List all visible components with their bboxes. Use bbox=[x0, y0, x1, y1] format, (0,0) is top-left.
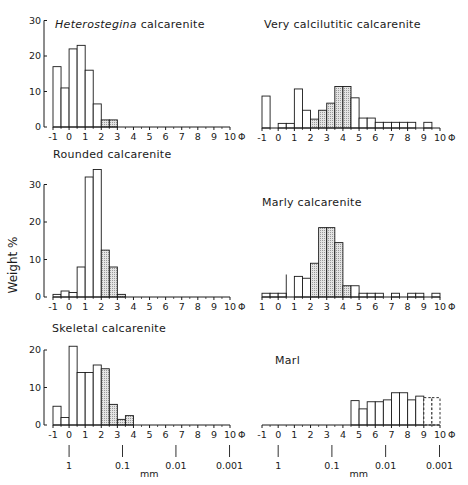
x-tick-label: 5 bbox=[147, 429, 153, 440]
x-tick-label: 7 bbox=[388, 132, 394, 143]
x-tick-label: 1 bbox=[82, 301, 88, 312]
histogram-bar bbox=[424, 122, 432, 128]
y-tick-label: 10 bbox=[29, 382, 41, 393]
histogram-bar bbox=[383, 122, 391, 128]
x-tick-label: 1 bbox=[291, 301, 297, 312]
x-tick-label: 0 bbox=[66, 301, 72, 312]
x-tick-label: 8 bbox=[405, 301, 411, 312]
histogram-bar bbox=[351, 401, 359, 425]
x-tick-label: 3 bbox=[114, 429, 120, 440]
histogram-bar bbox=[408, 122, 416, 128]
histogram-bar bbox=[383, 400, 391, 425]
phi-unit-label: Φ bbox=[238, 429, 245, 440]
histogram-bar bbox=[416, 396, 424, 425]
histogram-bar bbox=[278, 293, 286, 297]
histogram-bar bbox=[367, 402, 375, 425]
histogram-bar bbox=[53, 67, 61, 127]
histogram-bar bbox=[117, 419, 125, 425]
x-tick-label: 1 bbox=[291, 429, 297, 440]
x-tick-label: 4 bbox=[130, 131, 136, 142]
x-tick-label: 1 bbox=[259, 301, 265, 312]
histogram-bar bbox=[262, 293, 270, 297]
x-tick-label: 10 bbox=[224, 429, 236, 440]
x-tick-label: 9 bbox=[421, 429, 427, 440]
panel-title: Heterostegina calcarenite bbox=[55, 18, 205, 31]
panel-title: Very calcilutitic calcarenite bbox=[264, 18, 421, 31]
histogram-bar bbox=[311, 263, 319, 297]
y-tick-label: 10 bbox=[29, 86, 41, 97]
histogram-bar bbox=[109, 404, 117, 425]
x-tick-label: 3 bbox=[114, 131, 120, 142]
x-tick-label: 9 bbox=[421, 301, 427, 312]
panel-rounded-calcarenite: Rounded calcarenite-1012345678910Φ010203… bbox=[29, 148, 246, 312]
histogram-bar bbox=[400, 393, 408, 425]
x-tick-label: 8 bbox=[195, 429, 201, 440]
histogram-bar bbox=[294, 89, 302, 128]
x-tick-label: 5 bbox=[356, 301, 362, 312]
x-tick-label: 4 bbox=[340, 132, 346, 143]
x-tick-label: 8 bbox=[195, 301, 201, 312]
mm-tick-label: 0.1 bbox=[324, 460, 339, 471]
x-tick-label: 2 bbox=[308, 132, 314, 143]
x-tick-label: 7 bbox=[179, 301, 185, 312]
histogram-bar bbox=[101, 369, 109, 425]
phi-unit-label: Φ bbox=[238, 131, 245, 142]
histogram-bar bbox=[391, 393, 399, 425]
panel-title: Rounded calcarenite bbox=[53, 148, 172, 161]
mm-tick-label: 0.01 bbox=[165, 460, 186, 471]
histogram-bar bbox=[375, 122, 383, 128]
x-tick-label: 4 bbox=[340, 301, 346, 312]
histogram-bar bbox=[408, 293, 416, 297]
x-tick-label: 1 bbox=[82, 131, 88, 142]
histogram-bar bbox=[85, 373, 93, 426]
mm-tick-label: 0.001 bbox=[216, 460, 243, 471]
mm-unit-label: mm bbox=[140, 468, 159, 479]
phi-unit-label: Φ bbox=[238, 301, 245, 312]
x-tick-label: 9 bbox=[421, 132, 427, 143]
histogram-bar bbox=[61, 418, 69, 426]
y-tick-label: 20 bbox=[29, 50, 41, 61]
histogram-bar bbox=[93, 170, 101, 298]
x-tick-label: 1 bbox=[291, 132, 297, 143]
histogram-bar bbox=[335, 86, 343, 128]
histogram-bar bbox=[424, 398, 432, 425]
x-tick-label: 6 bbox=[372, 429, 378, 440]
x-tick-label: 9 bbox=[211, 301, 217, 312]
histogram-bar bbox=[391, 293, 399, 297]
histogram-bar bbox=[319, 228, 327, 297]
histogram-bar bbox=[109, 267, 117, 297]
x-tick-label: 8 bbox=[195, 131, 201, 142]
y-tick-label: 10 bbox=[29, 254, 41, 265]
x-tick-label: 0 bbox=[275, 132, 281, 143]
x-tick-label: 3 bbox=[114, 301, 120, 312]
histogram-bar bbox=[400, 122, 408, 128]
y-tick-label: 0 bbox=[35, 121, 41, 132]
histogram-bar bbox=[101, 120, 109, 127]
histogram-bar bbox=[359, 293, 367, 297]
x-tick-label: -1 bbox=[48, 131, 57, 142]
x-tick-label: 10 bbox=[224, 131, 236, 142]
x-tick-label: 6 bbox=[372, 132, 378, 143]
panel-very-calcilutitic-calcarenite: Very calcilutitic calcarenite-1012345678… bbox=[257, 18, 455, 143]
x-tick-label: 3 bbox=[324, 301, 330, 312]
x-tick-label: 4 bbox=[130, 429, 136, 440]
histogram-bar bbox=[327, 103, 335, 128]
histogram-bar bbox=[77, 373, 85, 426]
histogram-bar bbox=[278, 123, 286, 128]
x-tick-label: 2 bbox=[98, 429, 104, 440]
x-tick-label: 4 bbox=[130, 301, 136, 312]
histogram-bar bbox=[85, 70, 93, 127]
x-tick-label: 9 bbox=[211, 429, 217, 440]
phi-unit-label: Φ bbox=[448, 429, 455, 440]
x-tick-label: 0 bbox=[66, 429, 72, 440]
panel-marl: Marl-1012345678910Φ10.10.010.001mm bbox=[257, 354, 455, 479]
histogram-bar bbox=[61, 291, 69, 297]
x-tick-label: 10 bbox=[224, 301, 236, 312]
histogram-bar bbox=[432, 293, 440, 297]
x-tick-label: 10 bbox=[434, 429, 446, 440]
histogram-bar bbox=[359, 409, 367, 425]
x-tick-label: 6 bbox=[163, 131, 169, 142]
histogram-figure: Weight % Heterostegina calcarenite-10123… bbox=[0, 0, 468, 485]
histogram-bar bbox=[302, 278, 310, 297]
histogram-bar bbox=[270, 293, 278, 297]
